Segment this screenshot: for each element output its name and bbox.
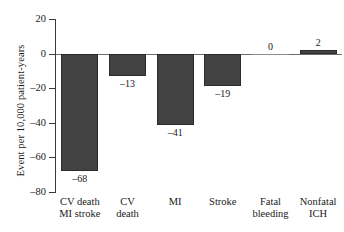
x-category-label-line: Nonfatal: [288, 196, 344, 208]
y-tick-label: –60: [6, 152, 46, 163]
y-tick-label: 0: [6, 49, 46, 60]
bar: [252, 54, 289, 55]
bar: [157, 54, 194, 125]
bar-value-label: –68: [49, 174, 110, 184]
zero-baseline: [56, 54, 342, 55]
y-tick-mark: [49, 19, 55, 20]
y-tick-mark: [49, 192, 55, 193]
bar-chart: Event per 10,000 patient-years 200–20–40…: [0, 0, 344, 232]
bar-value-label: –19: [192, 89, 253, 99]
y-tick-label: –20: [6, 83, 46, 94]
y-tick-label: –40: [6, 118, 46, 129]
plot-area: –68–13–41–1902: [56, 19, 342, 192]
y-tick-mark: [49, 157, 55, 158]
bar-value-label: –41: [145, 128, 206, 138]
y-tick-mark: [49, 123, 55, 124]
x-category-label-line: death: [98, 208, 158, 220]
bar: [204, 54, 241, 87]
bar: [61, 54, 98, 172]
bar: [300, 50, 337, 53]
y-tick-mark: [49, 88, 55, 89]
y-tick-label: 20: [6, 14, 46, 25]
x-category-label: NonfatalICH: [288, 196, 344, 219]
bar: [109, 54, 146, 76]
x-category-label-line: ICH: [288, 208, 344, 220]
y-tick-label: –80: [6, 187, 46, 198]
y-tick-mark: [49, 54, 55, 55]
bar-value-label: 2: [288, 38, 344, 48]
bar-value-label: –13: [97, 79, 158, 89]
